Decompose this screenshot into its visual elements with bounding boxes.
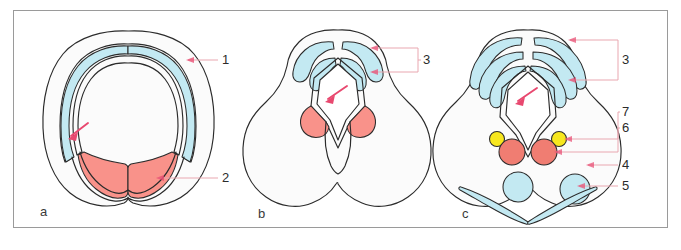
anatomical-diagram: 1 2 a (0, 0, 681, 250)
panel-letter-c: c (462, 206, 469, 221)
panel-c-salmon-node-left (499, 139, 525, 165)
callout-label-3-panel-c: 3 (622, 52, 629, 67)
panel-a: 1 2 a (40, 31, 229, 219)
callout-label-2: 2 (222, 170, 229, 185)
panel-letter-b: b (258, 206, 265, 221)
panel-b: 3 b (243, 30, 431, 221)
panel-c-cyan-round-left (503, 172, 533, 202)
callout-label-3-panel-b: 3 (423, 52, 430, 67)
callout-label-6: 6 (622, 120, 629, 135)
callout-label-7: 7 (622, 104, 629, 119)
figure-root: 1 2 a (0, 0, 681, 250)
panel-c-salmon-node-right (531, 139, 557, 165)
callout-label-4: 4 (622, 157, 629, 172)
callout-label-1: 1 (222, 52, 229, 67)
panel-c: 3 7 6 4 (433, 30, 629, 224)
panel-letter-a: a (40, 204, 48, 219)
callout-label-5: 5 (622, 178, 629, 193)
